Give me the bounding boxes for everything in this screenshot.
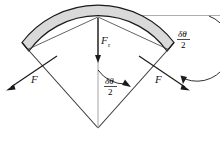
normal-force-label: F: [100, 34, 108, 46]
angle-center-denominator: 2: [108, 87, 113, 97]
delta-theta-over-2-arc-right: [185, 16, 220, 81]
normal-force-subscript: r: [108, 41, 111, 49]
F-arrow-right-head: [181, 85, 191, 91]
angle-center-numerator: δθ: [105, 76, 114, 86]
Fr-arrow-head: [95, 55, 101, 63]
tension-label-right: F: [154, 73, 162, 85]
angle-right-denominator: 2: [181, 40, 186, 50]
radius-left: [28, 49, 99, 128]
belt-element-diagram: F r F F δθ 2 δθ 2: [0, 0, 220, 142]
angle-arc-center-head: [122, 80, 131, 88]
F-arrow-left-head: [6, 85, 16, 91]
angle-right-numerator: δθ: [178, 29, 187, 39]
tension-label-left: F: [30, 73, 38, 85]
figure-container: F r F F δθ 2 δθ 2: [0, 0, 220, 142]
F-arrow-right-shaft: [139, 56, 185, 87]
